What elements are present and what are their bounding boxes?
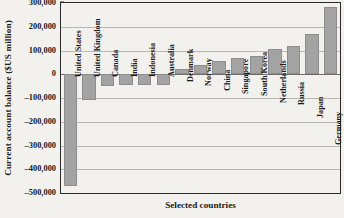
- y-axis-tick-label: –400,000: [25, 164, 56, 173]
- bar-category-label: Russia: [297, 82, 306, 105]
- chart-page: Current account balance ($US million) 30…: [0, 0, 344, 218]
- bar: [324, 7, 337, 75]
- y-axis-title: Current account balance ($US million): [3, 20, 13, 176]
- y-axis-title-container: Current account balance ($US million): [0, 0, 16, 196]
- bar-category-label: Germany: [334, 112, 343, 145]
- bar-series: United StatesUnited KingdomCanadaIndiaIn…: [61, 3, 340, 193]
- y-axis-tick-label: –100,000: [25, 93, 56, 102]
- bar: [287, 46, 300, 74]
- plot-area: United StatesUnited KingdomCanadaIndiaIn…: [60, 2, 341, 194]
- y-axis-tick-labels: 300,000200,000100,0000–100,000–200,000–3…: [16, 0, 60, 196]
- y-axis-tick-label: –200,000: [25, 116, 56, 125]
- bar: [64, 74, 77, 186]
- bar: [305, 34, 318, 74]
- y-axis-tick-label: 200,000: [29, 21, 56, 30]
- y-axis-tick-label: 300,000: [29, 0, 56, 7]
- bar-category-label: Canada: [111, 50, 120, 77]
- y-axis-tick-label: –500,000: [25, 188, 56, 197]
- bar: [82, 74, 95, 100]
- x-axis-title: Selected countries: [60, 200, 341, 210]
- bar-category-label: United Kingdom: [93, 19, 102, 77]
- bar-category-label: United States: [74, 31, 83, 78]
- y-axis-tick-label: –300,000: [25, 140, 56, 149]
- bar-category-label: Indonesia: [148, 43, 157, 77]
- y-axis-tick-label: 100,000: [29, 45, 56, 54]
- y-axis-tick-label: 0: [52, 69, 56, 78]
- bar-category-label: Japan: [316, 96, 325, 117]
